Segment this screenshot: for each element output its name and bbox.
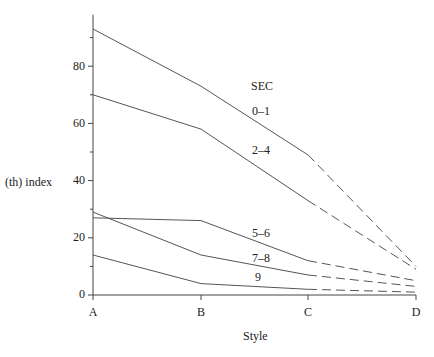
x-cat-a: A xyxy=(83,305,103,320)
x-cat-d: D xyxy=(406,305,426,320)
series-line-dashed xyxy=(308,261,416,281)
series-label-2-4: 2–4 xyxy=(252,143,270,158)
legend-title: SEC xyxy=(251,79,273,94)
y-tick-40: 40 xyxy=(61,173,85,188)
x-cat-c: C xyxy=(298,305,318,320)
series-line-solid xyxy=(93,212,308,275)
series-line-dashed xyxy=(308,275,416,286)
x-axis-label: Style xyxy=(243,329,268,344)
series-label-9: 9 xyxy=(255,270,261,285)
series-label-7-8: 7–8 xyxy=(252,251,270,266)
x-cat-b: B xyxy=(191,305,211,320)
y-tick-60: 60 xyxy=(61,116,85,131)
y-tick-80: 80 xyxy=(61,59,85,74)
y-axis-label: (th) index xyxy=(5,175,52,190)
series-line-dashed xyxy=(308,289,416,292)
series-line-solid xyxy=(93,255,308,289)
series-line-solid xyxy=(93,95,308,201)
series-label-5-6: 5–6 xyxy=(252,226,270,241)
series-line-solid xyxy=(93,29,308,155)
y-tick-0: 0 xyxy=(61,287,85,302)
y-tick-20: 20 xyxy=(61,230,85,245)
series-label-0-1: 0–1 xyxy=(252,104,270,119)
